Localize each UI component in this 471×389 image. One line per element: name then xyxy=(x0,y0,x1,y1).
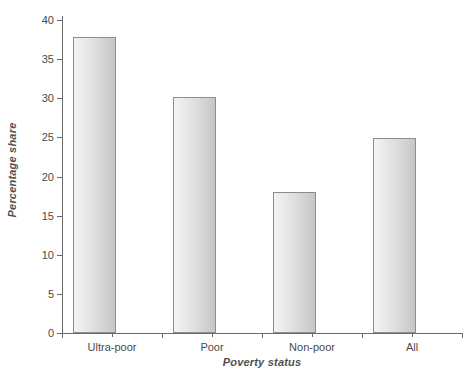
y-axis-tick-mark xyxy=(57,98,62,99)
x-axis-minor-tick-mark xyxy=(212,333,213,337)
y-axis-title: Percentage share xyxy=(0,0,24,340)
bar xyxy=(73,37,116,333)
y-axis-tick-label: 5 xyxy=(48,288,54,299)
x-axis-tick-label: Ultra-poor xyxy=(88,342,137,353)
y-axis-tick-label: 0 xyxy=(48,328,54,339)
y-axis-tick-mark xyxy=(57,255,62,256)
x-axis-tick-label: Poor xyxy=(200,342,223,353)
x-axis-tick-mark xyxy=(462,333,463,338)
y-axis-tick-mark xyxy=(57,59,62,60)
y-axis-tick-label: 15 xyxy=(42,210,54,221)
y-axis-tick-mark xyxy=(57,216,62,217)
y-axis-tick-label: 35 xyxy=(42,54,54,65)
y-axis-tick-mark xyxy=(57,294,62,295)
x-axis-minor-tick-mark xyxy=(412,333,413,337)
y-axis-tick-mark xyxy=(57,20,62,21)
y-axis-tick-label: 10 xyxy=(42,249,54,260)
y-axis-tick-mark xyxy=(57,177,62,178)
y-axis-tick-label: 40 xyxy=(42,15,54,26)
bar xyxy=(173,97,216,333)
plot-area: 0510152025303540 Ultra-poorPoorNon-poorA… xyxy=(62,20,462,333)
y-axis-tick-label: 25 xyxy=(42,132,54,143)
x-axis-tick-mark xyxy=(362,333,363,338)
y-axis-tick-label: 30 xyxy=(42,93,54,104)
x-axis-tick-label: Non-poor xyxy=(289,342,335,353)
y-axis-tick-label: 20 xyxy=(42,171,54,182)
y-axis-line xyxy=(62,16,63,333)
x-axis-minor-tick-mark xyxy=(112,333,113,337)
bar xyxy=(273,192,316,333)
y-axis-tick-mark xyxy=(57,137,62,138)
x-axis-tick-mark xyxy=(262,333,263,338)
y-axis-title-text: Percentage share xyxy=(6,123,18,218)
x-axis-tick-label: All xyxy=(406,342,418,353)
x-axis-minor-tick-mark xyxy=(312,333,313,337)
bar xyxy=(373,138,416,333)
x-axis-title: Poverty status xyxy=(62,356,462,368)
x-axis-tick-mark xyxy=(62,333,63,338)
x-axis-tick-mark xyxy=(162,333,163,338)
bar-chart: Percentage share 0510152025303540 Ultra-… xyxy=(0,0,471,389)
